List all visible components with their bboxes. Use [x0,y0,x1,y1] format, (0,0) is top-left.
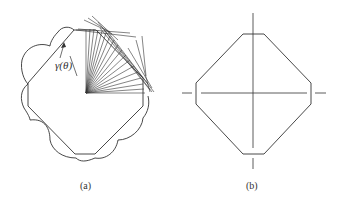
panel-b [182,13,326,169]
radial-fan [86,29,145,93]
panel-a [21,16,154,161]
arrowhead-icon [61,42,66,48]
gamma-polar-curve [21,27,148,161]
caption-b: (b) [246,180,258,191]
equilibrium-octagon [196,34,311,154]
gamma-label: γ(θ) [55,59,72,71]
wulff-octagon [28,30,143,154]
caption-a: (a) [80,180,91,191]
diagram-canvas [0,0,344,207]
